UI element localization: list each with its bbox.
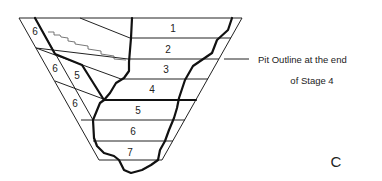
stage-label-3: 3	[163, 64, 169, 75]
stage-label-5: 5	[135, 105, 141, 116]
left-stage-label-5: 5	[74, 70, 80, 81]
left-stage-lines	[35, 18, 130, 120]
stage-label-2: 2	[165, 44, 171, 55]
stage-label-6: 6	[130, 126, 136, 137]
annotation-line-1: Pit Outline at the end	[258, 54, 347, 65]
open-pit-stages-diagram: 1 2 3 4 5 6 7 6 6 5 6 Pit Outline at the…	[0, 0, 382, 181]
left-stage-label-6c: 6	[72, 98, 78, 109]
annotation-line-2: of Stage 4	[290, 75, 333, 86]
panel-label: C	[331, 153, 342, 170]
stage-labels-left: 6 6 5 6	[32, 26, 80, 109]
annotation: Pit Outline at the end of Stage 4	[224, 54, 347, 86]
left-stage-label-6a: 6	[32, 26, 38, 37]
left-stage-label-6b: 6	[52, 63, 58, 74]
stage-label-1: 1	[170, 23, 176, 34]
stage-label-7: 7	[127, 147, 133, 158]
stage-label-4: 4	[149, 84, 155, 95]
bench-lines	[81, 38, 231, 141]
stage-labels-center: 1 2 3 4 5 6 7	[127, 23, 176, 158]
pit-outline-stage4	[35, 18, 232, 173]
